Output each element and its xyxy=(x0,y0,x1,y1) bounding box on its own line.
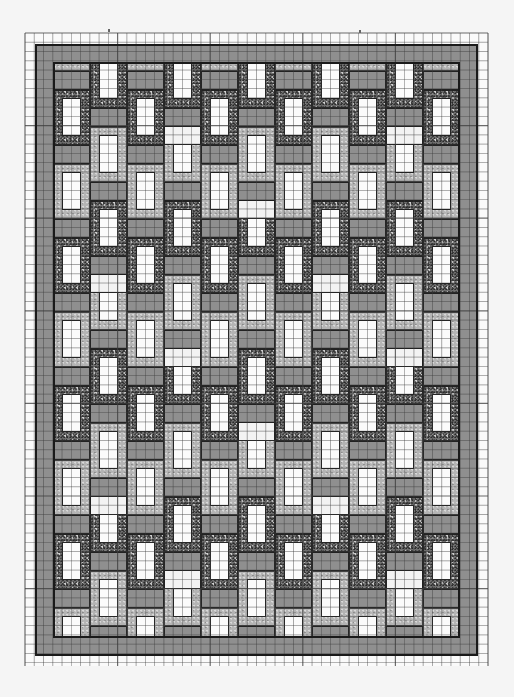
quilt-window xyxy=(136,98,155,136)
quilt-white-bar xyxy=(238,200,275,219)
quilt-window xyxy=(62,246,81,284)
quilt-window xyxy=(432,542,451,580)
quilt-bar xyxy=(312,182,349,201)
quilt-bar xyxy=(386,626,423,638)
quilt-frame-light xyxy=(127,62,164,71)
quilt-bar xyxy=(386,404,423,423)
quilt-bar xyxy=(164,478,201,497)
quilt-bar xyxy=(90,478,127,497)
quilt-window xyxy=(358,468,377,506)
quilt-window xyxy=(173,62,192,99)
quilt-bar xyxy=(349,441,386,460)
quilt-window xyxy=(432,616,451,638)
quilt-bar xyxy=(164,330,201,349)
quilt-bar xyxy=(349,219,386,238)
quilt-white-bar xyxy=(312,496,349,515)
quilt-white-bar xyxy=(386,348,423,367)
quilt-window xyxy=(173,505,192,543)
quilt-window xyxy=(395,62,414,99)
quilt-window xyxy=(173,283,192,321)
quilt-window xyxy=(136,394,155,432)
quilt-bar xyxy=(201,441,238,460)
quilt-bar xyxy=(238,404,275,423)
quilt-window xyxy=(321,357,340,395)
quilt-window xyxy=(358,172,377,210)
quilt-bar xyxy=(386,330,423,349)
quilt-frame-light xyxy=(423,62,460,71)
quilt-window xyxy=(210,320,229,358)
quilt-window xyxy=(247,283,266,321)
quilt-bar xyxy=(275,589,312,608)
quilt-inner-field xyxy=(53,62,460,638)
quilt-bar xyxy=(53,145,90,164)
quilt-window xyxy=(62,98,81,136)
quilt-bar xyxy=(238,626,275,638)
quilt-window xyxy=(62,542,81,580)
quilt-white-bar xyxy=(386,570,423,589)
quilt-bar xyxy=(275,71,312,90)
quilt-bar xyxy=(53,71,90,90)
quilt-window xyxy=(284,542,303,580)
quilt-frame-light xyxy=(53,62,90,71)
quilt-window xyxy=(210,98,229,136)
quilt-bar xyxy=(349,515,386,534)
quilt-window xyxy=(321,209,340,247)
quilt-bar xyxy=(349,589,386,608)
quilt-bar xyxy=(238,256,275,275)
quilt-bar xyxy=(312,552,349,571)
quilt-bar xyxy=(90,404,127,423)
quilt-bar xyxy=(275,441,312,460)
quilt-window xyxy=(247,357,266,395)
quilt-bar xyxy=(127,293,164,312)
quilt-window xyxy=(99,431,118,469)
quilt-bar xyxy=(164,552,201,571)
quilt-window xyxy=(210,616,229,638)
quilt-bar xyxy=(423,71,460,90)
quilt-bar xyxy=(312,626,349,638)
quilt-window xyxy=(432,468,451,506)
quilt-bar xyxy=(386,478,423,497)
quilt-bar xyxy=(386,182,423,201)
quilt-frame-light xyxy=(349,62,386,71)
quilt-bar xyxy=(349,367,386,386)
quilt-bar xyxy=(275,367,312,386)
quilt-bar xyxy=(90,256,127,275)
quilt-bar xyxy=(349,71,386,90)
quilt-window xyxy=(321,135,340,173)
quilt-bar xyxy=(164,626,201,638)
quilt-bar xyxy=(312,108,349,127)
quilt-bar xyxy=(201,145,238,164)
quilt-window xyxy=(358,320,377,358)
quilt-bar xyxy=(164,108,201,127)
quilt-bar xyxy=(238,330,275,349)
quilt-bar xyxy=(127,515,164,534)
quilt-bar xyxy=(164,404,201,423)
quilt-bar xyxy=(312,478,349,497)
quilt-window xyxy=(210,246,229,284)
quilt-bar xyxy=(90,108,127,127)
quilt-bar xyxy=(386,256,423,275)
quilt-white-bar xyxy=(312,274,349,293)
quilt-bar xyxy=(53,589,90,608)
quilt-window xyxy=(321,431,340,469)
quilt-bar xyxy=(201,219,238,238)
quilt-frame-light xyxy=(201,62,238,71)
quilt-window xyxy=(99,62,118,99)
quilt-window xyxy=(358,394,377,432)
quilt-bar xyxy=(238,478,275,497)
quilt-bar xyxy=(201,515,238,534)
quilt-bar xyxy=(127,441,164,460)
quilt-window xyxy=(247,135,266,173)
quilt-bar xyxy=(90,330,127,349)
quilt-bar xyxy=(127,71,164,90)
quilt-window xyxy=(432,98,451,136)
quilt-window xyxy=(62,172,81,210)
quilt-window xyxy=(210,542,229,580)
quilt-window xyxy=(284,172,303,210)
quilt-window xyxy=(173,431,192,469)
quilt-bar xyxy=(90,552,127,571)
quilt-bar xyxy=(275,515,312,534)
quilt-white-bar xyxy=(90,274,127,293)
quilt-bar xyxy=(53,293,90,312)
quilt-bar xyxy=(423,589,460,608)
